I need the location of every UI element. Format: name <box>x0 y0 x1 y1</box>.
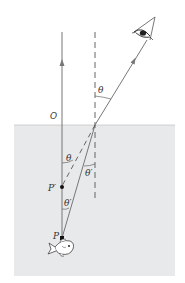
label-object-point: P <box>52 231 60 241</box>
label-theta-air: θ <box>98 85 104 95</box>
refracted-ray <box>95 40 147 125</box>
water-region <box>14 125 175 276</box>
label-image-point: P′ <box>47 183 56 193</box>
up-arrow-icon <box>60 59 65 66</box>
label-origin: O <box>50 111 57 121</box>
label-theta-prime-right: θ′ <box>85 168 92 178</box>
label-theta-water: θ <box>66 153 72 163</box>
ray-arrow-icon <box>131 57 136 64</box>
image-point-p-prime <box>60 185 64 189</box>
label-theta-prime-lower: θ′ <box>64 198 71 208</box>
angle-arc-theta-air <box>95 96 111 99</box>
eye-icon <box>132 17 155 40</box>
refraction-diagram: O θ θ θ′ P′ θ′ P <box>0 0 185 283</box>
